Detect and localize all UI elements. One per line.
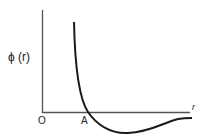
origin-label: O: [38, 115, 46, 126]
x-axis-label: r: [192, 102, 196, 112]
potential-diagram: ϕ (r) r O A: [0, 0, 208, 139]
potential-curve: [74, 22, 192, 133]
point-a-label: A: [81, 115, 88, 126]
y-axis-label: ϕ (r): [8, 50, 30, 64]
